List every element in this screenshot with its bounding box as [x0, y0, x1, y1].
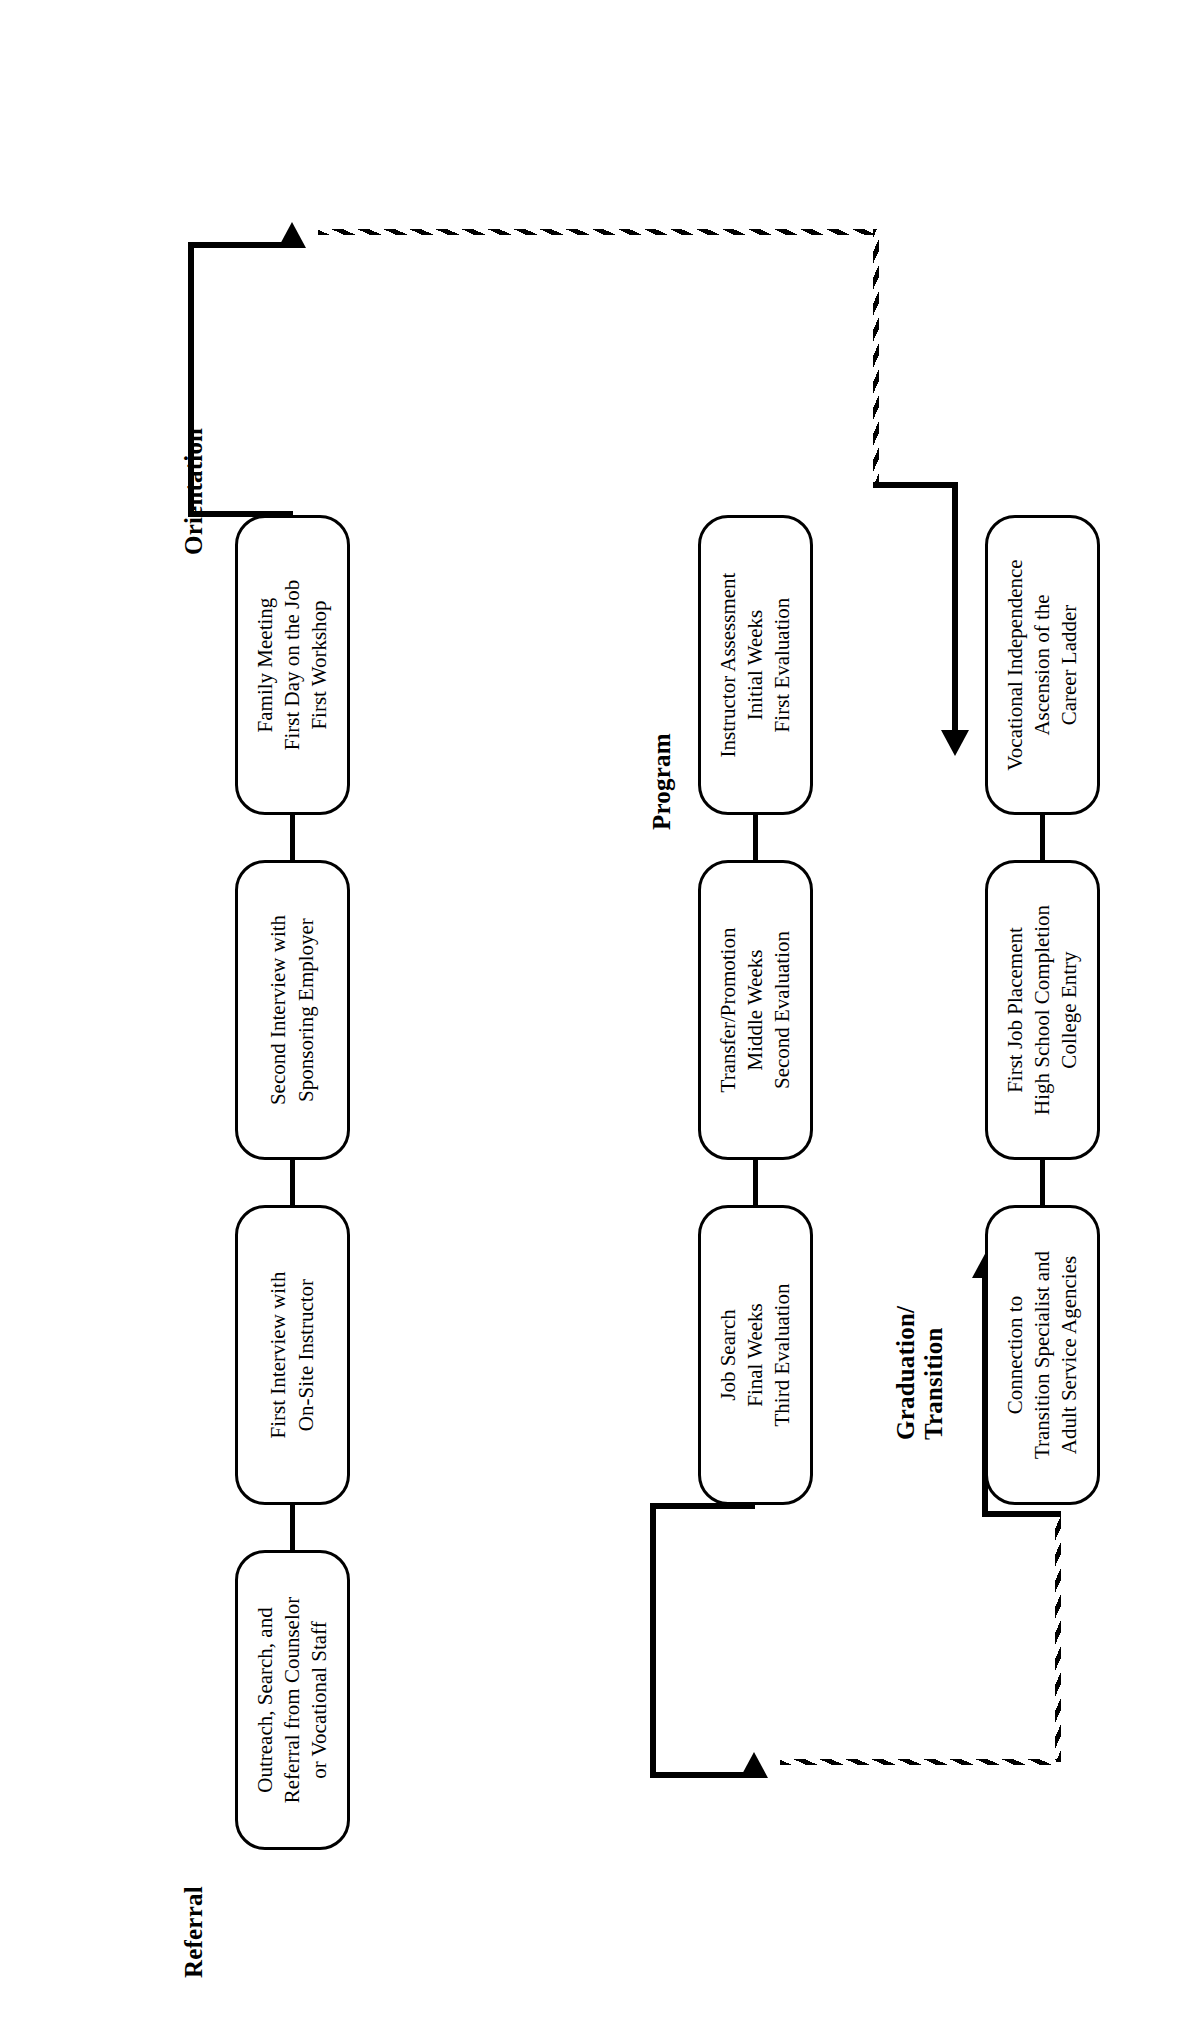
- connector-n1-n2: [290, 1502, 295, 1552]
- connector-n5-n6: [753, 812, 758, 862]
- node-first-interview[interactable]: First Interview with On-Site Instructor: [235, 1205, 350, 1505]
- flowchart-canvas: Referral Orientation Outreach, Search, a…: [30, 40, 1150, 2000]
- connector-n8-n9: [1040, 1157, 1045, 1207]
- connector-n9-n10: [1040, 812, 1045, 862]
- elbow-row1-out-vertical: [188, 511, 293, 517]
- elbow-row2-in-horizontal: [952, 482, 958, 730]
- node-connection-transition[interactable]: Connection to Transition Specialist and …: [985, 1205, 1100, 1505]
- arrow-into-row2: [941, 730, 969, 756]
- elbow-row1-out-horizontal: [188, 242, 194, 517]
- section-title-graduation: Graduation/ Transition: [892, 1306, 948, 1440]
- node-label: First Interview with On-Site Instructor: [265, 1272, 320, 1439]
- connector-n3-n4: [290, 812, 295, 862]
- node-label: Instructor Assessment Initial Weeks Firs…: [715, 573, 797, 758]
- node-transfer-promotion[interactable]: Transfer/Promotion Middle Weeks Second E…: [698, 860, 813, 1160]
- section-title-orientation: Orientation: [180, 428, 208, 555]
- dashed-line-row1-row2-foot: [873, 229, 879, 485]
- node-label: Vocational Independence Ascension of the…: [1002, 559, 1084, 770]
- node-label: Connection to Transition Specialist and …: [1002, 1251, 1084, 1459]
- arrow-row2-to-dashed: [740, 1752, 768, 1778]
- elbow-row2-out-horizontal: [650, 1503, 656, 1778]
- elbow-row2-in-vertical: [873, 482, 958, 488]
- node-label: First Job Placement High School Completi…: [1002, 905, 1084, 1115]
- dashed-line-row2-row3-foot: [1055, 1512, 1061, 1762]
- dashed-line-row2-row3: [780, 1759, 1060, 1765]
- section-title-referral: Referral: [180, 1886, 208, 1978]
- node-second-interview[interactable]: Second Interview with Sponsoring Employe…: [235, 860, 350, 1160]
- node-family-meeting[interactable]: Family Meeting First Day on the Job Firs…: [235, 515, 350, 815]
- node-label: Family Meeting First Day on the Job Firs…: [252, 580, 334, 750]
- elbow-row2-out-vertical: [650, 1503, 755, 1509]
- node-first-job-placement[interactable]: First Job Placement High School Completi…: [985, 860, 1100, 1160]
- node-instructor-assessment[interactable]: Instructor Assessment Initial Weeks Firs…: [698, 515, 813, 815]
- section-title-program: Program: [648, 733, 676, 830]
- connector-n2-n3: [290, 1157, 295, 1207]
- node-vocational-independence[interactable]: Vocational Independence Ascension of the…: [985, 515, 1100, 815]
- node-label: Second Interview with Sponsoring Employe…: [265, 915, 320, 1105]
- elbow-row3-in-vertical: [982, 1511, 1061, 1517]
- node-job-search[interactable]: Job Search Final Weeks Third Evaluation: [698, 1205, 813, 1505]
- arrow-row1-to-dashed: [278, 222, 306, 248]
- node-label: Job Search Final Weeks Third Evaluation: [715, 1284, 797, 1427]
- node-label: Transfer/Promotion Middle Weeks Second E…: [715, 928, 797, 1093]
- node-label: Outreach, Search, and Referral from Coun…: [252, 1597, 334, 1803]
- node-outreach-referral[interactable]: Outreach, Search, and Referral from Coun…: [235, 1550, 350, 1850]
- dashed-line-row1-row2: [318, 229, 878, 235]
- connector-n6-n7: [753, 1157, 758, 1207]
